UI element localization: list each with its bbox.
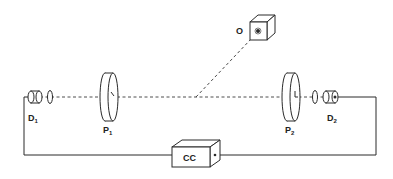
polarizer-left-label: P1: [103, 125, 113, 136]
polarizer-left: [100, 73, 118, 121]
source-beam-line: [196, 38, 252, 97]
detector-left-label: D1: [28, 113, 39, 124]
polarizer-right: [282, 73, 300, 121]
counter-label: CC: [183, 153, 196, 163]
source-label: O: [236, 26, 243, 36]
coincidence-counter: [172, 140, 220, 167]
detector-left: [28, 91, 42, 103]
polarizer-right-label: P2: [285, 125, 295, 136]
source-aperture-icon: [256, 29, 260, 33]
detector-right-label: D2: [327, 113, 338, 124]
detector-right: [323, 91, 338, 103]
lens-left: [48, 91, 53, 104]
wire-left: [24, 97, 172, 155]
optical-setup-diagram: O D1 P1 P2 D2: [0, 0, 393, 179]
source-cube: [250, 15, 275, 40]
lens-right: [313, 91, 318, 104]
